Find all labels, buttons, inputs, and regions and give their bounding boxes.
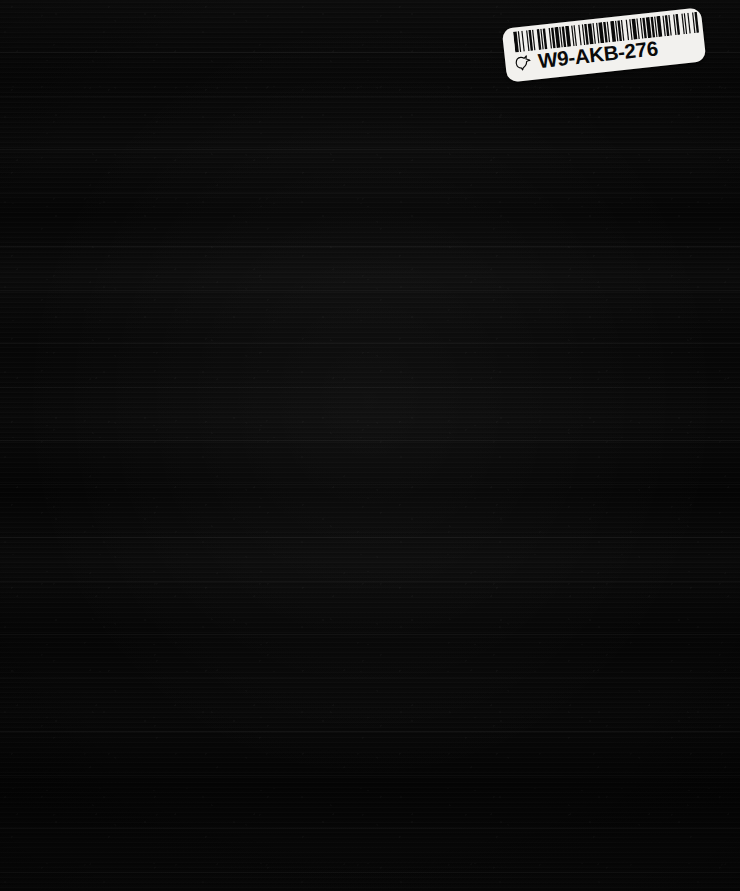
book-cover-surface xyxy=(0,0,740,891)
dove-icon xyxy=(514,54,535,72)
scanned-cover-page: W9-AKB-276 xyxy=(0,0,740,891)
